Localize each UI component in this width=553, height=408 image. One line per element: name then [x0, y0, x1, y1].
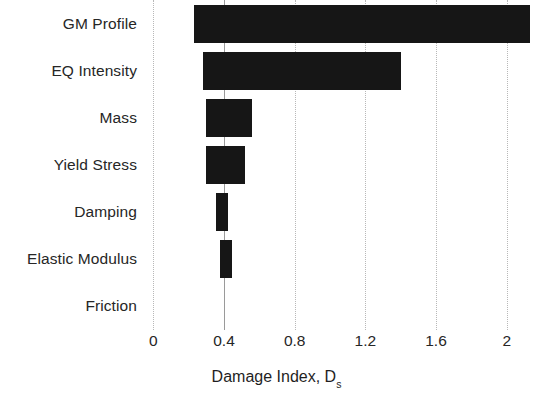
x-tick-label-2: 2	[502, 332, 511, 350]
bar-damping	[216, 193, 227, 231]
bar-row-damping	[153, 189, 506, 236]
category-label-gm-profile: GM Profile	[0, 0, 146, 47]
x-tick-label-0-8: 0.8	[284, 332, 306, 350]
plot-area	[153, 0, 506, 330]
gridline-2-0	[507, 0, 508, 330]
category-label-eq-intensity: EQ Intensity	[0, 47, 146, 94]
x-axis-title: Damage Index, Ds	[0, 368, 553, 388]
category-label-mass: Mass	[0, 94, 146, 141]
x-tick-label-1-6: 1.6	[425, 332, 447, 350]
bar-elastic-modulus	[220, 240, 231, 278]
category-label-damping: Damping	[0, 189, 146, 236]
category-label-elastic-modulus: Elastic Modulus	[0, 236, 146, 283]
bar-row-friction	[153, 283, 506, 330]
category-label-yield-stress: Yield Stress	[0, 141, 146, 188]
bar-row-elastic-modulus	[153, 236, 506, 283]
bars-layer	[153, 0, 506, 330]
bar-row-gm-profile	[153, 0, 506, 47]
x-tick-label-0: 0	[149, 332, 158, 350]
x-axis-title-subscript: s	[336, 378, 341, 390]
tornado-chart: GM Profile EQ Intensity Mass Yield Stres…	[0, 0, 553, 408]
x-axis-title-text: Damage Index, D	[212, 368, 337, 385]
x-tick-label-0-4: 0.4	[213, 332, 235, 350]
category-label-friction: Friction	[0, 283, 146, 330]
bar-gm-profile	[194, 5, 530, 43]
bar-row-yield-stress	[153, 141, 506, 188]
x-axis-tick-labels: 0 0.4 0.8 1.2 1.6 2	[0, 332, 553, 362]
x-tick-label-1-2: 1.2	[355, 332, 377, 350]
bar-eq-intensity	[203, 52, 401, 90]
bar-mass	[206, 99, 252, 137]
bar-row-eq-intensity	[153, 47, 506, 94]
bar-yield-stress	[206, 146, 245, 184]
category-labels: GM Profile EQ Intensity Mass Yield Stres…	[0, 0, 146, 330]
bar-row-mass	[153, 94, 506, 141]
